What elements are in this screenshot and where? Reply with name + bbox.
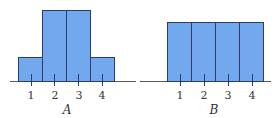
tick-label-b-4: 4 bbox=[246, 89, 258, 102]
tick-b-2 bbox=[204, 74, 205, 86]
tick-b-1 bbox=[180, 74, 181, 86]
tick-b-4 bbox=[252, 74, 253, 86]
tick-label-b-1: 1 bbox=[174, 89, 186, 102]
bar-b-3 bbox=[215, 22, 240, 82]
bar-b-4 bbox=[239, 22, 264, 82]
bar-b-2 bbox=[191, 22, 216, 82]
tick-b-3 bbox=[228, 74, 229, 86]
tick-label-b-3: 3 bbox=[222, 89, 234, 102]
bar-b-1 bbox=[167, 22, 192, 82]
histogram-b: 1 2 3 4 B bbox=[0, 0, 276, 118]
tick-label-b-2: 2 bbox=[198, 89, 210, 102]
chart-label-b: B bbox=[207, 103, 221, 117]
